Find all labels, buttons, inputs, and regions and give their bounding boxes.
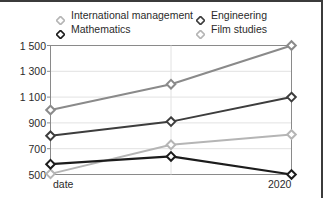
x-axis-tick-label-2020: 2020: [268, 178, 291, 190]
data-point-marker: [167, 117, 176, 126]
chart-plot-area: [0, 2, 323, 198]
data-point-marker: [46, 132, 55, 141]
x-axis-tick-label-date: date: [53, 178, 73, 190]
data-point-marker: [287, 41, 296, 50]
data-point-marker: [287, 93, 296, 102]
chart-figure: International management Engineering Mat…: [0, 0, 323, 198]
data-point-marker: [167, 80, 176, 89]
data-point-marker: [46, 160, 55, 169]
data-point-marker: [46, 170, 55, 179]
data-point-marker: [46, 106, 55, 115]
data-point-marker: [287, 130, 296, 139]
data-point-marker: [167, 152, 176, 161]
data-point-marker: [167, 141, 176, 150]
